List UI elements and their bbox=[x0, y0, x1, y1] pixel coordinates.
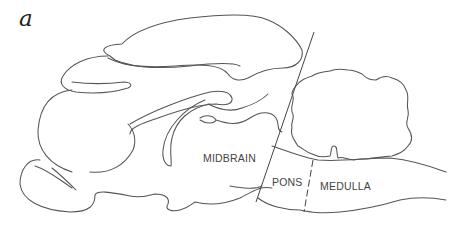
label-pons: PONS bbox=[272, 176, 303, 188]
cerebral-hemisphere-outline bbox=[38, 90, 135, 172]
cortex-outline bbox=[104, 15, 303, 80]
cerebellum-outline bbox=[291, 69, 411, 160]
midbrain-ventral-border bbox=[230, 186, 262, 188]
label-medulla: MEDULLA bbox=[320, 180, 371, 192]
panel-letter: a bbox=[19, 5, 33, 31]
label-midbrain: MIDBRAIN bbox=[203, 152, 256, 164]
hippocampus-band bbox=[130, 91, 232, 134]
frontal-lobe-outline bbox=[61, 56, 131, 93]
brainstem-upper-border bbox=[272, 146, 446, 172]
ventral-outline bbox=[20, 160, 272, 212]
pons-medulla-boundary bbox=[304, 160, 313, 212]
brainstem-lower-border bbox=[258, 198, 446, 213]
brain-outline-drawing bbox=[0, 0, 460, 248]
brain-sagittal-diagram: a MIDBRAIN PONS MEDULLA bbox=[0, 0, 460, 248]
lower-inner-curve bbox=[35, 166, 76, 190]
thalamus-outline bbox=[200, 94, 282, 132]
